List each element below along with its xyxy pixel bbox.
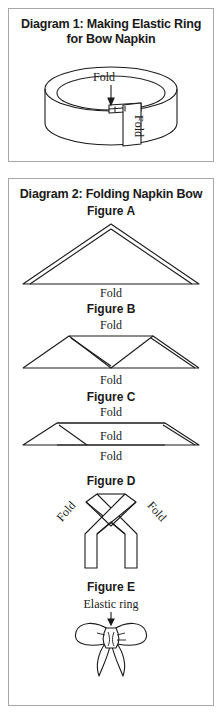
fold-label-top: Fold — [93, 70, 115, 84]
diagram-2-panel: Diagram 2: Folding Napkin Bow Figure A F… — [8, 178, 214, 706]
figure-d-fold-left: Fold — [53, 498, 78, 524]
figure-b-fold-bottom: Fold — [100, 373, 122, 387]
figure-d-label: Figure D — [9, 474, 213, 488]
diagram-1-panel: Diagram 1: Making Elastic Ring for Bow N… — [8, 8, 214, 162]
diagram-2-title: Diagram 2: Folding Napkin Bow — [9, 179, 213, 202]
figure-c-fold-middle: Fold — [100, 429, 122, 443]
figure-a-label: Figure A — [9, 204, 213, 218]
diagram-1-title-line-1: Diagram 1: Making Elastic Ring — [15, 17, 207, 32]
figure-b-illustration: Fold Fold — [13, 316, 209, 388]
figure-b-label: Figure B — [9, 302, 213, 316]
diagram-1-title-line-2: for Bow Napkin — [15, 32, 207, 47]
figure-d-illustration: Fold Fold — [13, 488, 209, 580]
elastic-ring-arrow — [108, 612, 114, 625]
figure-a-illustration: Fold — [13, 218, 209, 300]
elastic-ring-label: Elastic ring — [84, 597, 139, 611]
fold-label-side: Fold — [132, 115, 146, 137]
elastic-ring-illustration: Fold Fold — [13, 47, 209, 152]
figure-e-illustration: Elastic ring — [13, 594, 209, 680]
figure-d-fold-right: Fold — [144, 498, 169, 524]
figure-c-fold-bottom: Fold — [100, 449, 122, 463]
figure-c-label: Figure C — [9, 390, 213, 404]
instruction-sheet: Diagram 1: Making Elastic Ring for Bow N… — [0, 0, 224, 721]
figure-a-fold-bottom: Fold — [100, 286, 122, 300]
figure-c-fold-top: Fold — [100, 405, 122, 419]
figure-c-illustration: Fold Fold Fold — [13, 404, 209, 472]
figure-e-label: Figure E — [9, 580, 213, 594]
figure-b-fold-top: Fold — [100, 318, 122, 332]
fold-arrow-top — [108, 85, 114, 105]
diagram-1-title: Diagram 1: Making Elastic Ring for Bow N… — [9, 9, 213, 47]
